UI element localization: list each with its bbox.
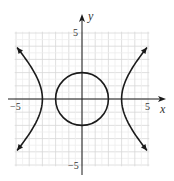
y-tick-5: 5 <box>73 27 78 38</box>
x-tick-5: 5 <box>145 101 150 112</box>
graph: −5 5 5 −5 x y <box>0 0 174 181</box>
x-tick-neg5: −5 <box>10 101 21 112</box>
x-axis-label: x <box>159 102 166 116</box>
y-tick-neg5: −5 <box>68 160 79 171</box>
axes <box>8 14 166 175</box>
y-axis-label: y <box>87 9 94 23</box>
